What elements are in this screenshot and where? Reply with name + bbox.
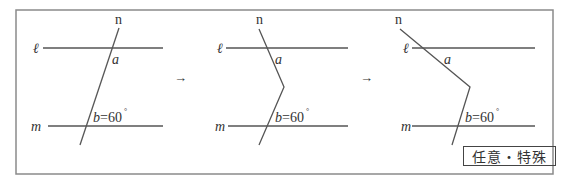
degree-sign: °: [496, 107, 499, 116]
panel-3: [400, 29, 535, 145]
panel-1: [43, 28, 163, 145]
line-n: [80, 28, 119, 145]
label-l: ℓ: [217, 41, 223, 56]
degree-sign: °: [124, 107, 127, 116]
label-n: n: [256, 12, 263, 27]
label-a: a: [444, 52, 451, 67]
label-b: b=60: [93, 110, 122, 125]
arrow-2: →: [360, 70, 373, 85]
label-l: ℓ: [403, 41, 409, 56]
label-a: a: [112, 52, 119, 67]
panel-2: [226, 29, 348, 145]
tag-arbitrary-special: 任意・特殊: [463, 146, 556, 166]
degree-sign: °: [306, 107, 309, 116]
label-m: m: [401, 119, 411, 134]
label-m: m: [215, 119, 225, 134]
label-b: b=60: [275, 110, 304, 125]
arrow-1: →: [174, 70, 187, 85]
label-n: n: [115, 12, 122, 27]
label-a: a: [275, 52, 282, 67]
label-m: m: [31, 119, 41, 134]
label-l: ℓ: [33, 41, 39, 56]
label-n: n: [395, 12, 402, 27]
label-b: b=60: [465, 110, 494, 125]
line-n-bent: [259, 29, 284, 145]
